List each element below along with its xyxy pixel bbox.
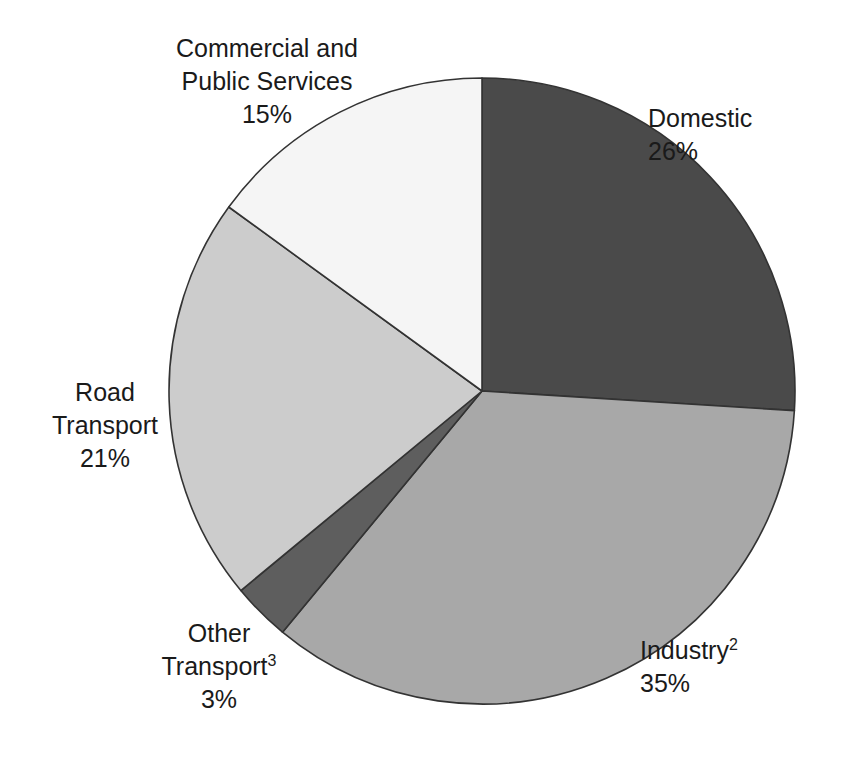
footnote-marker-other-transport: 3 [268,652,277,669]
slice-label-line-1: Other [104,617,334,650]
slice-label-commercial-public-services: Commercial and Public Services 15% [152,32,382,131]
slice-label-industry-text: Industry [640,636,729,664]
slice-label-line-2: Transport3 [104,650,334,683]
pie-chart-figure: Commercial and Public Services 15% Domes… [0,0,842,759]
slice-label-line-2: Public Services [152,65,382,98]
slice-label-line-1: Domestic [648,102,842,135]
slice-value-commercial-public-services: 15% [152,98,382,131]
slice-label-industry: Industry2 35% [640,634,840,700]
slice-label-other-transport-text: Transport [162,652,268,680]
footnote-marker-industry: 2 [729,636,738,653]
slice-value-industry: 35% [640,667,840,700]
slice-label-line-1: Commercial and [152,32,382,65]
slice-label-other-transport: Other Transport3 3% [104,617,334,716]
slice-value-other-transport: 3% [104,683,334,716]
slice-label-line-2: Transport [10,409,200,442]
slice-label-domestic: Domestic 26% [648,102,842,168]
slice-value-road-transport: 21% [10,442,200,475]
slice-label-line-1: Industry2 [640,634,840,667]
slice-label-road-transport: Road Transport 21% [10,376,200,475]
slice-value-domestic: 26% [648,135,842,168]
slice-label-line-1: Road [10,376,200,409]
